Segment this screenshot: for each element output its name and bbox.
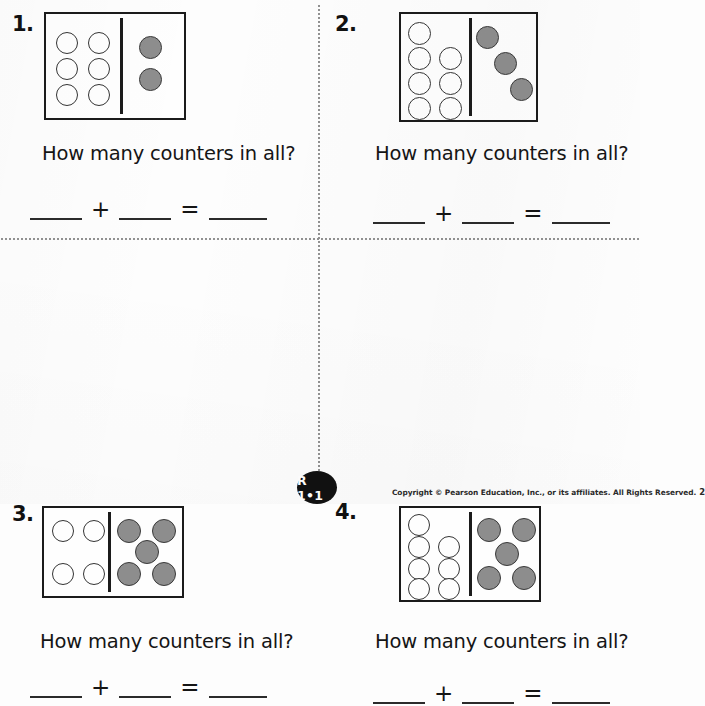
counter-mat-1: [44, 12, 186, 120]
problem-2: 2. How many counters in all? +: [321, 0, 639, 238]
answer-blank-addend-2[interactable]: [462, 680, 514, 704]
counter-mat-2: [399, 12, 538, 122]
question-text-2: How many counters in all?: [375, 142, 628, 165]
white-counter: [408, 72, 431, 95]
gray-counter: [139, 68, 162, 91]
answer-blank-sum[interactable]: [552, 200, 610, 224]
white-counter: [439, 47, 462, 70]
copyright-text: Copyright © Pearson Education, Inc., or …: [392, 488, 696, 497]
vertical-dotted-divider: [318, 4, 320, 476]
mat-right-region-4: [470, 508, 539, 600]
gray-counter: [512, 566, 536, 590]
equals-operator: =: [514, 683, 551, 704]
white-counter: [88, 32, 110, 54]
white-counter: [408, 578, 430, 600]
answer-blank-addend-1[interactable]: [30, 674, 82, 698]
mat-right-region-3: [109, 508, 182, 596]
equation-row-3: + =: [30, 674, 267, 698]
white-counter: [88, 58, 110, 80]
problem-number-1: 1.: [12, 12, 34, 36]
mat-right-region-2: [470, 14, 536, 120]
equals-operator: =: [514, 203, 551, 224]
white-counter: [438, 578, 460, 600]
problem-4: 4. How many counters in all?: [321, 244, 639, 482]
gray-counter: [139, 36, 162, 59]
mat-left-region-4: [401, 508, 469, 600]
white-counter: [408, 22, 431, 45]
white-counter: [408, 536, 430, 558]
gray-counter: [476, 26, 499, 49]
answer-blank-sum[interactable]: [209, 674, 267, 698]
gray-counter: [135, 540, 159, 564]
gray-counter: [494, 52, 517, 75]
question-text-4: How many counters in all?: [375, 630, 628, 653]
copyright-notice: Copyright © Pearson Education, Inc., or …: [392, 487, 705, 497]
answer-blank-sum[interactable]: [552, 680, 610, 704]
gray-counter: [512, 518, 536, 542]
question-text-1: How many counters in all?: [42, 142, 295, 165]
horizontal-dotted-divider: [0, 238, 640, 240]
white-counter: [83, 563, 105, 585]
equals-operator: =: [171, 199, 208, 220]
counter-mat-4: [399, 506, 541, 602]
problem-number-3: 3.: [12, 502, 34, 526]
plus-operator: +: [425, 203, 462, 224]
white-counter: [88, 84, 110, 106]
answer-blank-addend-2[interactable]: [119, 674, 171, 698]
white-counter: [408, 97, 431, 120]
plus-operator: +: [82, 677, 119, 698]
white-counter: [439, 97, 462, 120]
white-counter: [83, 520, 105, 542]
white-counter: [52, 563, 74, 585]
mat-right-region-1: [121, 14, 184, 118]
white-counter: [52, 520, 74, 542]
answer-blank-addend-2[interactable]: [119, 196, 171, 220]
gray-counter: [117, 562, 141, 586]
white-counter: [438, 536, 460, 558]
equation-row-1: + =: [30, 196, 267, 220]
gray-counter: [510, 78, 533, 101]
problem-number-4: 4.: [335, 500, 357, 524]
equation-row-2: + =: [373, 200, 610, 224]
lesson-badge: R 1•1: [297, 471, 337, 504]
gray-counter: [477, 518, 501, 542]
answer-blank-sum[interactable]: [209, 196, 267, 220]
white-counter: [408, 558, 430, 580]
white-counter: [439, 72, 462, 95]
mat-left-region-2: [401, 14, 469, 120]
white-counter: [438, 558, 460, 580]
problem-number-2: 2.: [335, 12, 357, 36]
mat-left-region-1: [46, 14, 120, 118]
gray-counter: [495, 542, 519, 566]
gray-counter: [117, 519, 141, 543]
gray-counter: [477, 566, 501, 590]
plus-operator: +: [82, 199, 119, 220]
answer-blank-addend-1[interactable]: [373, 680, 425, 704]
problem-1: 1. How many counters in all? + =: [0, 0, 318, 238]
white-counter: [56, 84, 78, 106]
gray-counter: [152, 562, 176, 586]
footer-page-number: 2: [699, 487, 705, 497]
white-counter: [408, 514, 430, 536]
counter-mat-3: [42, 506, 184, 598]
equation-row-4: + =: [373, 680, 610, 704]
question-text-3: How many counters in all?: [40, 630, 293, 653]
equals-operator: =: [171, 677, 208, 698]
gray-counter: [152, 519, 176, 543]
white-counter: [408, 47, 431, 70]
plus-operator: +: [425, 683, 462, 704]
problem-3: 3. How many counters in all? + =: [0, 244, 318, 482]
white-counter: [56, 58, 78, 80]
answer-blank-addend-1[interactable]: [373, 200, 425, 224]
white-counter: [56, 32, 78, 54]
answer-blank-addend-1[interactable]: [30, 196, 82, 220]
mat-left-region-3: [44, 508, 108, 596]
answer-blank-addend-2[interactable]: [462, 200, 514, 224]
